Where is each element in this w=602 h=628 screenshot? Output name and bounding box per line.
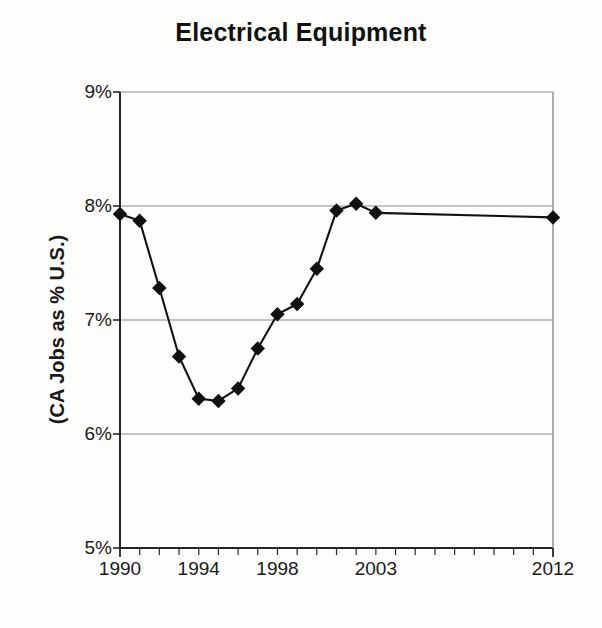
data-point-marker <box>192 392 205 405</box>
data-point-marker <box>251 342 264 355</box>
plot-area <box>0 0 602 628</box>
data-point-marker <box>291 298 304 311</box>
data-point-marker <box>350 197 363 210</box>
data-point-marker <box>232 382 245 395</box>
line-chart-svg <box>0 0 602 628</box>
data-point-marker <box>114 208 127 221</box>
data-point-marker <box>547 211 560 224</box>
data-point-marker <box>310 262 323 275</box>
data-point-marker <box>173 350 186 363</box>
data-point-marker <box>133 214 146 227</box>
data-point-marker <box>153 282 166 295</box>
data-point-marker <box>212 395 225 408</box>
data-point-marker <box>369 206 382 219</box>
data-point-marker <box>271 308 284 321</box>
chart-page: Electrical Equipment (CA Jobs as % U.S.)… <box>0 0 602 628</box>
data-line <box>120 204 553 401</box>
